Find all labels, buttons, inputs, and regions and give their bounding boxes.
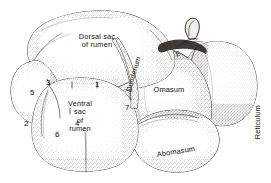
- stomach-illustration: [0, 0, 271, 183]
- callout-5: 5: [30, 89, 34, 97]
- callout-6: 6: [55, 131, 59, 139]
- label-ventral-sac: Ventral sac of rumen: [55, 100, 105, 134]
- ruminant-stomach-figure: Dorsal sac of rumen Ventral sac of rumen…: [0, 0, 271, 183]
- label-omasum: Omasum: [142, 86, 196, 94]
- callout-3: 3: [46, 79, 50, 87]
- callout-2: 2: [24, 120, 28, 128]
- callout-7: 7: [125, 104, 129, 112]
- label-reticulum: Reticulum: [254, 92, 262, 152]
- callout-4: 4: [75, 120, 79, 128]
- label-dorsal-sac: Dorsal sac of rumen: [59, 33, 135, 50]
- callout-1: 1: [95, 81, 99, 89]
